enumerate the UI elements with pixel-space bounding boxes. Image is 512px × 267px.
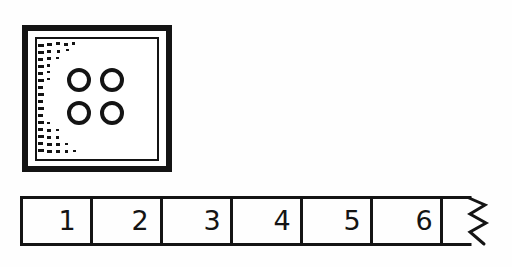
cell-label-6: 6 (415, 205, 432, 236)
cell-label-3: 3 (203, 205, 220, 236)
cell-label-1: 1 (58, 205, 75, 236)
strip-continuation-zigzag (469, 198, 486, 244)
strip-outline (22, 198, 471, 245)
worksheet-figure: 1 2 3 4 5 6 (0, 0, 512, 267)
cell-label-4: 4 (273, 205, 290, 236)
number-line-strip: 1 2 3 4 5 6 (22, 198, 487, 245)
cell-labels: 1 2 3 4 5 6 (58, 205, 432, 236)
framed-box-with-counters (25, 28, 169, 169)
figure-canvas: 1 2 3 4 5 6 (0, 0, 512, 267)
inner-rectangle (36, 38, 158, 160)
cell-label-2: 2 (131, 205, 148, 236)
cell-label-5: 5 (343, 205, 360, 236)
